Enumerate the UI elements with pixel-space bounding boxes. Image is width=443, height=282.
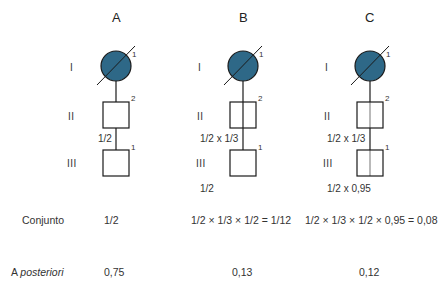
probability-III-b: 1/2 bbox=[200, 183, 214, 194]
individual-number: 1 bbox=[259, 50, 263, 59]
conjunto-value-a: 1/2 bbox=[104, 214, 119, 226]
pedigree-a bbox=[97, 46, 135, 176]
individual-number: 1 bbox=[386, 50, 390, 59]
individual-number: 1 bbox=[131, 143, 135, 152]
generation-label-III: III bbox=[67, 158, 77, 169]
pedigree-b bbox=[224, 46, 262, 176]
individual-number: 1 bbox=[385, 143, 389, 152]
generation-label-III: III bbox=[196, 158, 206, 169]
a-posteriori-italic: posteriori bbox=[20, 266, 63, 278]
generation-label-II: II bbox=[68, 111, 75, 122]
generation-label-I: I bbox=[70, 62, 73, 73]
a-posteriori-prefix: A bbox=[11, 266, 20, 278]
individual-number: 2 bbox=[258, 94, 262, 103]
probability-II-III-b: 1/2 x 1/3 bbox=[200, 133, 238, 144]
probability-II-III-c: 1/2 x 1/3 bbox=[327, 133, 365, 144]
a-posteriori-value-b: 0,13 bbox=[232, 266, 252, 278]
conjunto-label: Conjunto bbox=[22, 214, 64, 226]
individual-number: 2 bbox=[131, 94, 135, 103]
individual-number: 1 bbox=[258, 143, 262, 152]
generation-label-I: I bbox=[325, 62, 328, 73]
column-title-a: A bbox=[112, 10, 121, 25]
generation-label-II: II bbox=[197, 111, 204, 122]
a-posteriori-value-c: 0,12 bbox=[359, 266, 379, 278]
individual-number: 2 bbox=[385, 94, 389, 103]
generation-label-I: I bbox=[198, 62, 201, 73]
column-title-c: C bbox=[365, 10, 374, 25]
conjunto-value-c: 1/2 × 1/3 × 1/2 × 0,95 = 0,08 bbox=[305, 214, 438, 226]
male-symbol-II-2 bbox=[103, 102, 129, 128]
probability-II-III-a: 1/2 bbox=[98, 133, 112, 144]
male-symbol-III-1 bbox=[103, 150, 129, 176]
conjunto-value-b: 1/2 × 1/3 × 1/2 = 1/12 bbox=[191, 214, 291, 226]
pedigree-c bbox=[351, 46, 389, 176]
a-posteriori-label: A posteriori bbox=[11, 266, 64, 278]
male-symbol-III-1 bbox=[230, 150, 256, 176]
generation-label-II: II bbox=[324, 111, 331, 122]
a-posteriori-value-a: 0,75 bbox=[104, 266, 124, 278]
probability-III-c: 1/2 x 0,95 bbox=[327, 183, 371, 194]
individual-number: 1 bbox=[132, 50, 136, 59]
generation-label-III: III bbox=[323, 158, 333, 169]
column-title-b: B bbox=[239, 10, 248, 25]
